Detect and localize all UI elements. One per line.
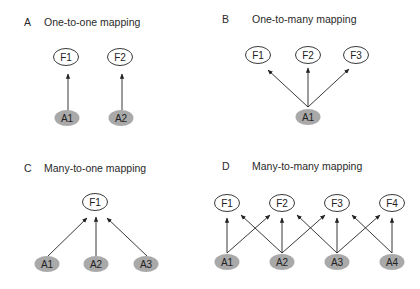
svg-text:A3: A3 xyxy=(331,257,344,268)
svg-text:A1: A1 xyxy=(41,259,54,270)
svg-text:F4: F4 xyxy=(386,198,398,209)
panel-b: F1 F2 F3 A1 xyxy=(246,47,369,126)
node-f4: F4 xyxy=(380,195,405,212)
node-a3: A3 xyxy=(134,256,159,272)
svg-text:A2: A2 xyxy=(90,259,103,270)
node-f1: F1 xyxy=(83,194,108,211)
node-f3: F3 xyxy=(325,195,350,212)
panel-c: F1 A1 A2 A3 xyxy=(35,194,159,273)
svg-text:F2: F2 xyxy=(276,198,288,209)
panel-a: F1 F2 A1 A2 xyxy=(54,49,134,127)
edge-a2-f1 xyxy=(241,215,282,253)
edge-a1-f2 xyxy=(227,215,270,253)
node-f1: F1 xyxy=(246,47,271,64)
node-a4: A4 xyxy=(380,254,405,270)
svg-text:A2: A2 xyxy=(115,113,128,124)
mapping-diagram: F1 F2 A1 A2 F1 F2 F3 xyxy=(0,0,420,289)
svg-text:A1: A1 xyxy=(61,113,74,124)
node-a1: A1 xyxy=(35,256,60,272)
svg-text:A1: A1 xyxy=(221,257,234,268)
svg-text:F1: F1 xyxy=(89,197,101,208)
node-f2: F2 xyxy=(270,195,295,212)
svg-text:F3: F3 xyxy=(350,50,362,61)
edge-a3-f1 xyxy=(107,218,147,256)
node-f1: F1 xyxy=(54,49,79,66)
svg-text:F2: F2 xyxy=(114,52,126,63)
svg-text:F1: F1 xyxy=(221,198,233,209)
node-f1: F1 xyxy=(215,195,240,212)
edge-a1-f1 xyxy=(268,70,308,107)
svg-text:F2: F2 xyxy=(302,50,314,61)
svg-text:A4: A4 xyxy=(386,257,399,268)
node-a2: A2 xyxy=(84,256,109,272)
edge-a1-f3 xyxy=(308,69,349,107)
node-f3: F3 xyxy=(344,47,369,64)
svg-text:F1: F1 xyxy=(252,50,264,61)
node-a1: A1 xyxy=(296,109,321,125)
node-a1: A1 xyxy=(215,254,240,270)
svg-text:F3: F3 xyxy=(331,198,343,209)
node-f2: F2 xyxy=(296,47,321,64)
node-a1: A1 xyxy=(55,110,80,126)
node-a2: A2 xyxy=(109,110,134,126)
svg-text:A3: A3 xyxy=(140,259,153,270)
panel-d: F1 F2 F3 F4 A1 A2 A3 A4 xyxy=(215,195,405,271)
node-a3: A3 xyxy=(325,254,350,270)
svg-text:A2: A2 xyxy=(276,257,289,268)
node-f2: F2 xyxy=(108,49,133,66)
svg-text:A1: A1 xyxy=(302,112,315,123)
node-a2: A2 xyxy=(270,254,295,270)
edge-a1-f1 xyxy=(48,218,87,256)
svg-text:F1: F1 xyxy=(60,52,72,63)
